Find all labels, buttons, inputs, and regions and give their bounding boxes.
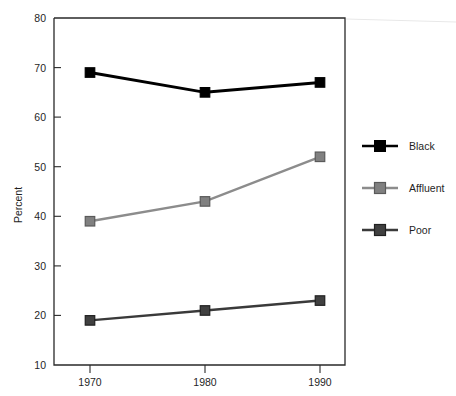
y-tick-labels: 80 70 60 50 40 30 20 10	[34, 12, 46, 371]
x-tick-labels: 1970 1980 1990	[78, 376, 332, 388]
x-axis-ticks	[90, 365, 320, 373]
y-tick-label: 70	[34, 62, 46, 74]
y-tick-label: 30	[34, 260, 46, 272]
scan-artifact-line	[346, 19, 456, 22]
legend-marker-swatch	[375, 141, 386, 152]
series-line	[90, 157, 320, 221]
data-point-marker	[200, 88, 210, 98]
line-chart: 80 70 60 50 40 30 20 10 1970 1980 1990 P…	[0, 0, 456, 396]
data-point-marker	[200, 197, 210, 207]
series-layer	[85, 68, 325, 325]
y-tick-label: 80	[34, 12, 46, 24]
y-tick-label: 60	[34, 111, 46, 123]
legend-marker-swatch	[375, 183, 386, 194]
y-tick-label: 40	[34, 210, 46, 222]
series-black	[85, 68, 325, 97]
legend: Black Affluent Poor	[362, 140, 444, 236]
legend-label: Black	[409, 140, 435, 152]
legend-item-poor[interactable]: Poor	[362, 224, 432, 236]
y-tick-label: 10	[34, 359, 46, 371]
y-axis-ticks	[54, 68, 61, 316]
x-tick-label: 1980	[193, 376, 217, 388]
y-axis-title: Percent	[12, 187, 24, 223]
data-point-marker	[315, 296, 325, 306]
series-affluent	[85, 152, 325, 226]
legend-label: Poor	[409, 224, 432, 236]
x-tick-label: 1970	[78, 376, 102, 388]
series-poor	[85, 296, 325, 325]
y-tick-label: 20	[34, 309, 46, 321]
data-point-marker	[85, 68, 95, 78]
data-point-marker	[85, 316, 95, 326]
legend-item-affluent[interactable]: Affluent	[362, 182, 444, 194]
data-point-marker	[315, 78, 325, 88]
y-tick-label: 50	[34, 161, 46, 173]
legend-item-black[interactable]: Black	[362, 140, 435, 152]
chart-canvas: 80 70 60 50 40 30 20 10 1970 1980 1990 P…	[0, 0, 456, 396]
plot-frame	[54, 18, 345, 365]
data-point-marker	[85, 216, 95, 226]
x-tick-label: 1990	[308, 376, 332, 388]
legend-label: Affluent	[409, 182, 444, 194]
data-point-marker	[315, 152, 325, 162]
legend-marker-swatch	[375, 225, 386, 236]
data-point-marker	[200, 306, 210, 316]
